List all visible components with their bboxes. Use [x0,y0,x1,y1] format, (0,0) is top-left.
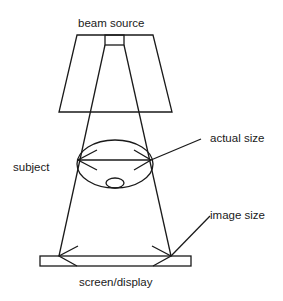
diagram-graphics [0,0,283,301]
subject-label: subject [13,162,49,174]
beam-source-aperture [105,35,124,45]
subject-inner-feature [106,178,124,188]
screen-display-label: screen/display [79,277,153,289]
image-size-label: image size [210,210,265,222]
beam-ray-right [124,45,171,256]
actual-size-label: actual size [210,133,264,145]
actual-size-leader [151,139,201,160]
beam-ray-left [59,45,105,256]
image-size-leader [171,216,210,256]
beam-source-housing [59,35,172,112]
beam-source-label: beam source [78,18,144,30]
diagram-canvas: beam source subject actual size image si… [0,0,283,301]
subject-body [77,140,153,188]
